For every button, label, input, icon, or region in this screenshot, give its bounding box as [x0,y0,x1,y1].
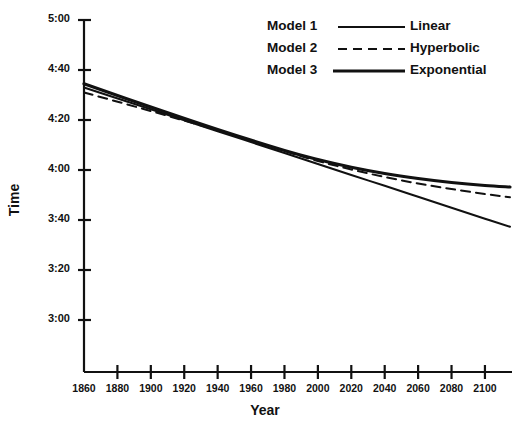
legend-kind-label: Hyperbolic [410,40,480,55]
y-tick-label: 4:20 [24,112,70,124]
x-tick-label: 2100 [465,382,505,394]
y-tick-label: 4:40 [24,62,70,74]
series-line-exponential [84,84,510,187]
y-tick-label: 3:40 [24,212,70,224]
legend-kind-label: Exponential [410,62,487,77]
y-tick-label: 5:00 [24,12,70,24]
legend-model-label: Model 3 [267,62,317,77]
chart-figure: Time Year 5:004:404:204:003:403:203:00 1… [0,0,525,435]
y-axis-title: Time [6,150,22,250]
legend-kind-label: Linear [410,18,451,33]
legend-line-samples [333,27,405,71]
legend-model-label: Model 2 [267,40,317,55]
data-series-group [84,84,510,227]
x-axis-title: Year [235,402,295,418]
series-line-linear [84,88,510,227]
y-tick-label: 4:00 [24,162,70,174]
y-tick-label: 3:20 [24,262,70,274]
y-tick-label: 3:00 [24,312,70,324]
legend-model-label: Model 1 [267,18,317,33]
